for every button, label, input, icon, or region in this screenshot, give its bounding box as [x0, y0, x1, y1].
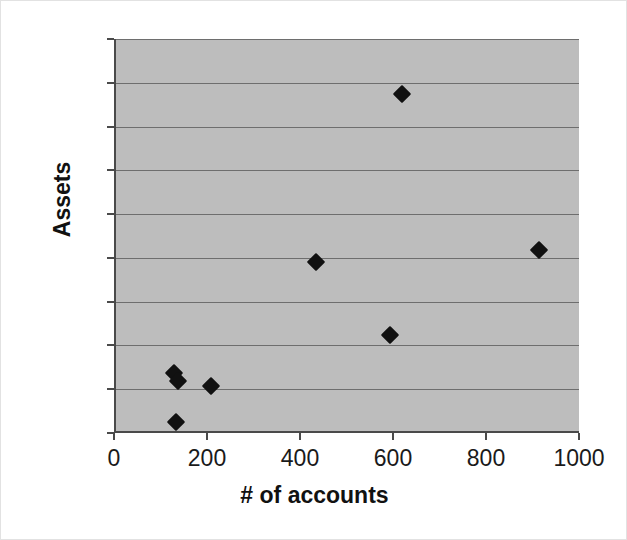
y-axis-tick: [107, 126, 114, 128]
gridline: [116, 39, 579, 40]
scatter-chart-figure: 051015202530354045 02004006008001000 Ass…: [0, 0, 627, 540]
y-axis-tick: [107, 82, 114, 84]
x-axis-tick: [392, 433, 394, 440]
data-point: [393, 85, 411, 103]
gridline: [116, 127, 579, 128]
x-axis-tick-label: 200: [188, 447, 226, 470]
x-axis-tick: [299, 433, 301, 440]
data-point: [167, 412, 185, 430]
x-axis-tick: [113, 433, 115, 440]
x-axis-tick-label: 0: [108, 447, 121, 470]
data-point: [307, 253, 325, 271]
gridline: [116, 170, 579, 171]
gridline: [116, 389, 579, 390]
gridline: [116, 83, 579, 84]
x-axis-tick: [578, 433, 580, 440]
y-axis-tick: [107, 388, 114, 390]
y-axis-tick: [107, 213, 114, 215]
gridline: [116, 345, 579, 346]
x-axis-tick: [485, 433, 487, 440]
y-axis-tick: [107, 38, 114, 40]
x-axis-title: # of accounts: [1, 482, 627, 509]
data-point: [381, 326, 399, 344]
plot-area: [114, 39, 579, 433]
data-point: [530, 241, 548, 259]
x-axis-tick-label: 600: [374, 447, 412, 470]
gridline: [116, 258, 579, 259]
y-axis-tick: [107, 344, 114, 346]
x-axis-tick-label: 1000: [553, 447, 604, 470]
x-axis-tick: [206, 433, 208, 440]
gridline: [116, 302, 579, 303]
y-axis-tick: [107, 257, 114, 259]
x-axis-tick-label: 400: [281, 447, 319, 470]
gridline: [116, 214, 579, 215]
x-axis-tick-label: 800: [467, 447, 505, 470]
y-axis-tick: [107, 301, 114, 303]
y-axis-tick: [107, 169, 114, 171]
y-axis-title: Assets: [49, 162, 76, 237]
data-point: [202, 377, 220, 395]
